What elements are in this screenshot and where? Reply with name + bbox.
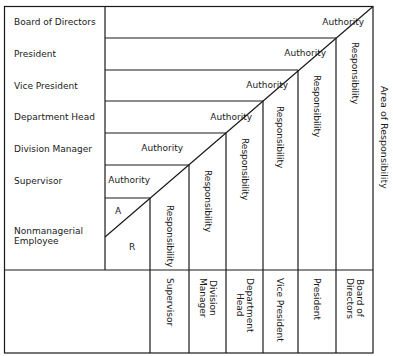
column-label-supervisor: Supervisor: [165, 278, 175, 326]
responsibility-label-board: Responsibility: [350, 42, 360, 104]
row-label-nonmanagerial-employee: Nonmanagerial Employee: [14, 226, 83, 246]
row-label-department-head: Department Head: [14, 112, 95, 122]
row-label-vice-president: Vice President: [14, 81, 78, 91]
authority-label-department-head: Authority: [210, 112, 252, 122]
row-label-division-manager: Division Manager: [14, 144, 92, 154]
authority-label-supervisor: Authority: [108, 175, 150, 185]
column-label-vice-president: Vice President: [275, 278, 285, 342]
column-label-board-of-directors: Board of Directors: [345, 278, 365, 319]
authority-label-division-manager: Authority: [141, 143, 183, 153]
column-label-president: President: [312, 278, 322, 320]
authority-label-vice-president: Authority: [246, 80, 288, 90]
row-label-president: President: [14, 49, 56, 59]
responsibility-label-president: Responsibility: [312, 75, 322, 137]
responsibility-label-vice-president: Responsibility: [275, 106, 285, 168]
row-label-supervisor: Supervisor: [14, 176, 62, 186]
row-label-board-of-directors: Board of Directors: [14, 17, 96, 27]
employee-authority-label: A: [115, 206, 121, 216]
column-label-department-head: Department Head: [235, 278, 255, 332]
authority-label-president: Authority: [284, 48, 326, 58]
employee-responsibility-label: R: [129, 242, 135, 252]
responsibility-label-supervisor: Responsibility: [165, 205, 175, 267]
responsibility-label-department-head: Responsibility: [240, 138, 250, 200]
column-label-division-manager: Division Manager: [198, 278, 218, 317]
area-of-responsibility-label: Area of Responsibility: [379, 86, 389, 189]
authority-label-board: Authority: [322, 17, 364, 27]
responsibility-label-division-manager: Responsibility: [203, 170, 213, 232]
